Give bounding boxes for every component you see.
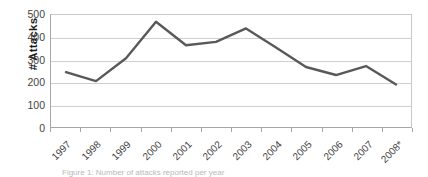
x-axis-tick-labels: 1997199819992000200120022003200420052006…	[0, 0, 428, 177]
figure-caption-clipped: Figure 1: Number of attacks reported per…	[0, 170, 428, 177]
figure-caption-text: Figure 1: Number of attacks reported per…	[62, 170, 224, 177]
line-chart: # Attacks 0100200300400500 1997199819992…	[0, 0, 428, 177]
